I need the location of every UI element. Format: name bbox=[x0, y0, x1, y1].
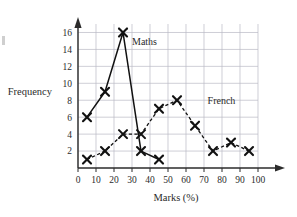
y-tick-label: 2 bbox=[67, 146, 72, 156]
y-tick-label: 4 bbox=[67, 130, 72, 140]
data-point-marker bbox=[83, 156, 91, 164]
data-point-marker bbox=[155, 105, 163, 113]
x-tick-label: 70 bbox=[199, 175, 209, 185]
x-tick-label: 90 bbox=[235, 175, 245, 185]
chart-canvas: 161412108642 0102030405060708090100 Math… bbox=[0, 0, 297, 217]
data-point-marker bbox=[227, 139, 235, 147]
data-point-marker bbox=[155, 156, 163, 164]
x-tick-label: 30 bbox=[127, 175, 137, 185]
x-tick-label: 60 bbox=[181, 175, 191, 185]
data-point-marker bbox=[101, 88, 109, 96]
frequency-polygon-chart: 161412108642 0102030405060708090100 Math… bbox=[0, 0, 297, 217]
y-tick-label: 8 bbox=[67, 96, 72, 106]
x-tick-label: 40 bbox=[145, 175, 155, 185]
x-tick-label: 80 bbox=[217, 175, 227, 185]
y-axis-tick-labels: 161412108642 bbox=[63, 28, 73, 157]
y-tick-label: 12 bbox=[63, 62, 73, 72]
series-label-maths: Maths bbox=[132, 36, 157, 47]
x-tick-label: 100 bbox=[251, 175, 266, 185]
series-maths bbox=[83, 28, 163, 163]
x-axis-tick-labels: 0102030405060708090100 bbox=[76, 175, 266, 185]
x-tick-label: 20 bbox=[109, 175, 119, 185]
y-tick-label: 14 bbox=[63, 45, 73, 55]
y-tick-label: 6 bbox=[67, 113, 72, 123]
series-label-french: French bbox=[208, 95, 236, 106]
y-tick-label: 16 bbox=[63, 28, 73, 38]
x-tick-label: 10 bbox=[91, 175, 101, 185]
series-line-maths bbox=[87, 32, 159, 159]
x-axis-title: Marks (%) bbox=[153, 192, 199, 204]
axis-lines bbox=[74, 17, 285, 172]
data-point-marker bbox=[191, 122, 199, 130]
x-tick-label: 50 bbox=[163, 175, 173, 185]
y-axis-title: Frequency bbox=[8, 86, 53, 97]
x-tick-label: 0 bbox=[76, 175, 81, 185]
y-tick-label: 10 bbox=[63, 79, 73, 89]
